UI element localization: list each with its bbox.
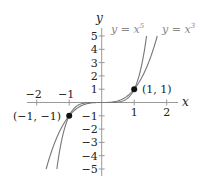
x-tick-label: −2	[26, 88, 42, 101]
curve-label-x5: y = x5	[110, 22, 145, 36]
point-label-pos: (1, 1)	[142, 83, 172, 96]
point-label-neg: (−1, −1)	[13, 110, 61, 123]
y-tick-label: −5	[81, 163, 97, 176]
point-neg1-neg1	[66, 113, 72, 119]
y-tick-label: −2	[81, 123, 97, 136]
y-tick-label: −1	[81, 110, 97, 123]
x-tick-label: 2	[163, 106, 170, 119]
y-tick-label: 3	[91, 57, 98, 70]
y-tick-label: 4	[91, 43, 98, 56]
point-1-1	[131, 86, 137, 92]
y-axis-label: y	[95, 11, 103, 25]
x-axis-label: x	[182, 95, 189, 109]
x-tick-label: −1	[58, 88, 74, 101]
y-tick-label: −3	[81, 136, 97, 149]
curve-label-x3: y = x3	[161, 22, 196, 36]
y-tick-label: 1	[91, 83, 98, 96]
y-tick-label: 5	[91, 30, 98, 43]
chart-svg: −2−112 54321−1−2−3−4−5 x y y = x5 y = x3…	[0, 0, 205, 181]
x-tick-label: 1	[131, 106, 138, 119]
chart: −2−112 54321−1−2−3−4−5 x y y = x5 y = x3…	[0, 0, 205, 181]
y-tick-label: −4	[81, 150, 97, 163]
y-tick-label: 2	[91, 70, 98, 83]
